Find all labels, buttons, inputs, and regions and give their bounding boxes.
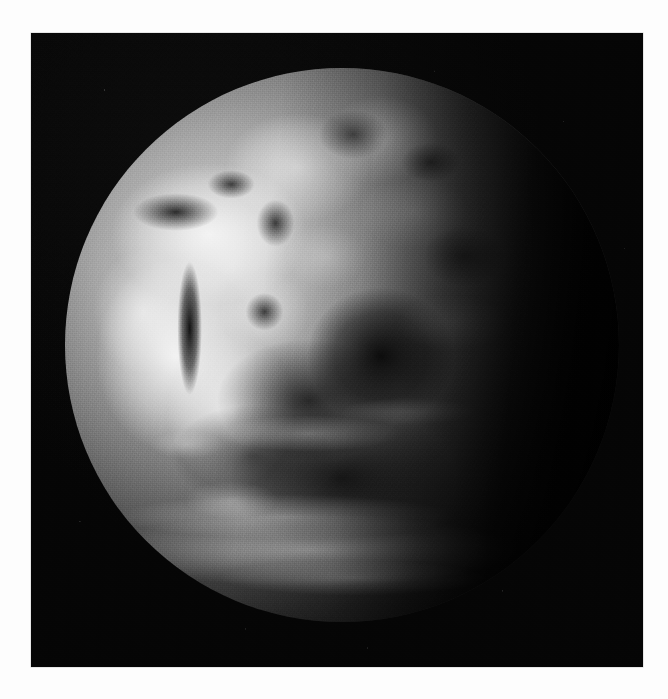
earth-terminator-shadow	[65, 68, 619, 622]
paper-margin-bottom	[0, 667, 668, 699]
paper-margin-right	[643, 0, 668, 699]
paper-margin-top	[0, 0, 668, 33]
satellite-photo: Black and white satellite photograph of …	[31, 33, 643, 667]
page-canvas: Black and white satellite photograph of …	[0, 0, 668, 699]
earth-disk	[65, 68, 619, 622]
paper-margin-left	[0, 0, 31, 699]
